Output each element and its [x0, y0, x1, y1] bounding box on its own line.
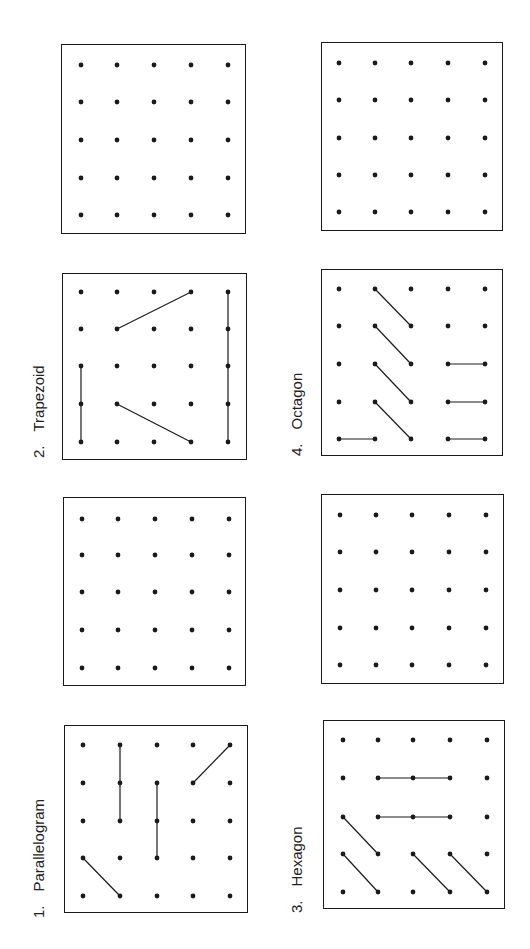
- geoboard-peg: [79, 100, 84, 105]
- geoboard-peg: [484, 550, 489, 555]
- geoboard-peg: [484, 588, 489, 593]
- geoboard-peg: [152, 290, 157, 295]
- exercise-label: 4.Octagon: [288, 373, 305, 456]
- geoboard-peg: [228, 781, 233, 786]
- geoboard-segment: [117, 292, 191, 329]
- geoboard-peg: [226, 402, 231, 407]
- geoboard-peg: [337, 362, 342, 367]
- geoboard-peg: [446, 287, 451, 292]
- geoboard-peg: [81, 781, 86, 786]
- geoboard-peg: [153, 628, 158, 633]
- geoboard-peg: [191, 894, 196, 899]
- geoboard-peg: [374, 550, 379, 555]
- geoboard-peg: [227, 628, 232, 633]
- geoboard-peg: [373, 98, 378, 103]
- geoboard-segment: [375, 289, 411, 326]
- geoboard-peg: [485, 890, 490, 895]
- geoboard-peg: [115, 440, 120, 445]
- geoboard-peg: [483, 173, 488, 178]
- geoboard-peg: [155, 743, 160, 748]
- geoboard-peg: [484, 513, 489, 518]
- geoboard-peg: [483, 362, 488, 367]
- geoboard-peg: [115, 176, 120, 181]
- geoboard-peg: [446, 362, 451, 367]
- geoboard-peg: [152, 364, 157, 369]
- geoboard-peg: [228, 856, 233, 861]
- geoboard-peg: [118, 856, 123, 861]
- geoboard-peg: [373, 400, 378, 405]
- geoboard-peg: [118, 743, 123, 748]
- geoboard-peg: [226, 327, 231, 332]
- geoboard-peg: [79, 327, 84, 332]
- geoboard-peg: [373, 362, 378, 367]
- geoboard-peg: [337, 287, 342, 292]
- geoboard-peg: [153, 590, 158, 595]
- geoboard-peg: [410, 663, 415, 668]
- geoboard-peg: [189, 176, 194, 181]
- geoboard-peg: [80, 590, 85, 595]
- blank-geoboard: [321, 42, 503, 231]
- geoboard-peg: [228, 819, 233, 824]
- geoboard-peg: [191, 781, 196, 786]
- geoboard-peg: [447, 550, 452, 555]
- geoboard-segment: [117, 404, 191, 442]
- geoboard-peg: [341, 852, 346, 857]
- geoboard-peg: [373, 437, 378, 442]
- blank-geoboard: [63, 497, 246, 686]
- geoboard-peg: [448, 738, 453, 743]
- geoboard-peg: [153, 517, 158, 522]
- geoboard-peg: [485, 738, 490, 743]
- geoboard-peg: [409, 98, 414, 103]
- geoboard-peg: [410, 626, 415, 631]
- example-geoboard: [64, 725, 248, 913]
- geoboard-peg: [483, 61, 488, 66]
- geoboard-segment: [343, 854, 378, 892]
- blank-geoboard: [321, 494, 504, 684]
- geoboard-peg: [79, 176, 84, 181]
- geoboard-peg: [79, 440, 84, 445]
- example-geoboard: [323, 720, 505, 909]
- geoboard-peg: [228, 743, 233, 748]
- geoboard-peg: [226, 100, 231, 105]
- geoboard-peg: [155, 781, 160, 786]
- geoboard-peg: [115, 213, 120, 218]
- geoboard-peg: [116, 666, 121, 671]
- geoboard-peg: [79, 364, 84, 369]
- exercise-label: 3.Hexagon: [288, 826, 305, 913]
- geoboard-peg: [485, 852, 490, 857]
- geoboard-segment: [375, 402, 411, 439]
- geoboard-peg: [374, 663, 379, 668]
- geoboard-peg: [376, 815, 381, 820]
- geoboard-peg: [116, 628, 121, 633]
- geoboard-peg: [228, 894, 233, 899]
- geoboard-peg: [155, 819, 160, 824]
- geoboard-peg: [448, 852, 453, 857]
- geoboard-peg: [153, 553, 158, 558]
- geoboard-peg: [447, 626, 452, 631]
- geoboard-peg: [152, 440, 157, 445]
- geoboard-peg: [115, 63, 120, 68]
- geoboard-peg: [226, 364, 231, 369]
- geoboard-peg: [190, 553, 195, 558]
- geoboard-peg: [337, 136, 342, 141]
- geoboard-peg: [227, 590, 232, 595]
- geoboard-peg: [410, 513, 415, 518]
- geoboard-peg: [341, 890, 346, 895]
- geoboard-peg: [81, 894, 86, 899]
- geoboard-segment: [413, 854, 450, 892]
- geoboard-peg: [337, 324, 342, 329]
- geoboard-peg: [374, 588, 379, 593]
- geoboard-peg: [115, 138, 120, 143]
- geoboard-peg: [190, 590, 195, 595]
- geoboard-peg: [448, 890, 453, 895]
- geoboard-peg: [483, 98, 488, 103]
- geoboard-peg: [116, 590, 121, 595]
- geoboard-peg: [155, 894, 160, 899]
- geoboard-peg: [80, 517, 85, 522]
- geoboard-peg: [152, 176, 157, 181]
- geoboard-peg: [116, 553, 121, 558]
- geoboard-peg: [483, 287, 488, 292]
- geoboard-peg: [115, 402, 120, 407]
- geoboard-peg: [191, 856, 196, 861]
- geoboard-peg: [448, 776, 453, 781]
